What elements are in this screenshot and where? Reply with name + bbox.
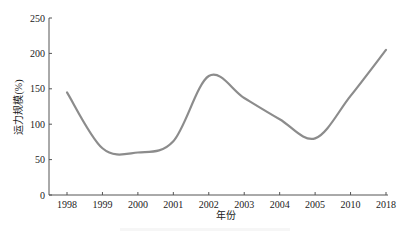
x-tick-label: 2018 <box>376 199 396 210</box>
x-tick-label: 2010 <box>341 199 361 210</box>
x-tick-label: 2005 <box>305 199 325 210</box>
y-axis-title: 运力规模(%) <box>12 80 25 135</box>
x-axis: 1998199920002001200220032004200520102018 <box>49 192 396 210</box>
x-tick-label: 2000 <box>128 199 148 210</box>
x-tick-label: 1998 <box>57 199 77 210</box>
series-line <box>67 50 386 155</box>
x-tick-label: 2004 <box>270 199 290 210</box>
faint-caption <box>120 228 290 231</box>
line-chart: 050100150200250 199819992000200120022003… <box>0 0 408 236</box>
x-tick-label: 2003 <box>234 199 254 210</box>
x-axis-title: 年份 <box>216 209 236 221</box>
y-tick-label: 200 <box>30 48 45 59</box>
y-tick-label: 150 <box>30 83 45 94</box>
y-tick-label: 100 <box>30 119 45 130</box>
y-axis: 050100150200250 <box>30 13 52 201</box>
x-tick-label: 2002 <box>199 199 219 210</box>
y-tick-label: 250 <box>30 13 45 24</box>
y-tick-label: 0 <box>40 190 45 201</box>
x-tick-label: 1999 <box>92 199 112 210</box>
x-tick-label: 2001 <box>163 199 183 210</box>
y-tick-label: 50 <box>35 154 45 165</box>
